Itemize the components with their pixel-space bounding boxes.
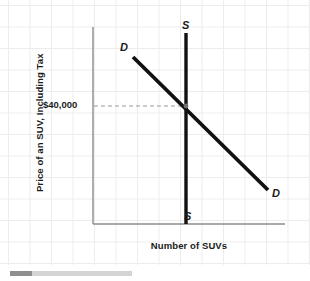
demand-curve-label-top: D bbox=[120, 42, 128, 53]
equilibrium-point-marker bbox=[184, 104, 189, 109]
bottom-scroll-bar[interactable] bbox=[10, 271, 132, 276]
supply-demand-chart: Price of an SUV, Including Tax Number of… bbox=[0, 0, 310, 265]
bottom-scroll-bar-thumb[interactable] bbox=[10, 271, 32, 276]
demand-curve bbox=[133, 57, 268, 190]
y-axis-title: Price of an SUV, Including Tax bbox=[35, 43, 45, 203]
supply-curve-label-bottom: S bbox=[184, 211, 191, 222]
demand-curve-label-bottom: D bbox=[272, 188, 280, 199]
supply-curve-label-top: S bbox=[182, 20, 189, 31]
x-axis-title: Number of SUVs bbox=[93, 241, 285, 251]
chart-svg bbox=[0, 0, 310, 265]
price-tick-label: $40,000 bbox=[43, 100, 77, 110]
